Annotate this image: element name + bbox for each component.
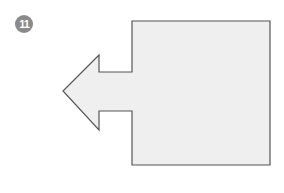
left-arrow-square-shape — [63, 21, 270, 165]
arrow-square-diagram — [0, 0, 284, 193]
